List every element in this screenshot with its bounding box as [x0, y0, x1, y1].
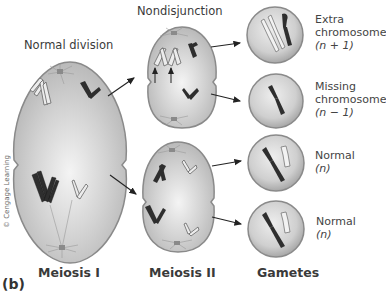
copyright-credit: © Cengage Learning: [3, 155, 11, 228]
gamete-extra: [247, 7, 303, 63]
gamete-missing: [249, 74, 303, 128]
stage-label-meiosis-2: Meiosis II: [149, 265, 216, 280]
gamete-normal-1: [248, 135, 304, 191]
figure-part-label: (b): [2, 276, 25, 292]
gamete-label-extra: Extra chromosome (n + 1): [315, 13, 386, 52]
nondisjunction-label: Nondisjunction: [137, 5, 223, 18]
gamete-normal-2: [248, 201, 304, 257]
gamete-label-missing: Missing chromosome (n − 1): [315, 80, 386, 119]
stage-label-gametes: Gametes: [257, 265, 319, 280]
meiosis-2-normal-cell: [143, 142, 214, 252]
arrow-to-nondisjunction-cell: [108, 78, 134, 96]
stage-label-meiosis-1: Meiosis I: [38, 265, 100, 280]
meiosis-1-cell: [14, 62, 127, 263]
gamete-label-normal-2: Normal (n): [316, 215, 356, 241]
meiosis-2-nondisjunction-cell: [148, 27, 216, 128]
gamete-label-normal-1: Normal (n): [315, 149, 355, 175]
normal-division-label: Normal division: [24, 39, 113, 52]
